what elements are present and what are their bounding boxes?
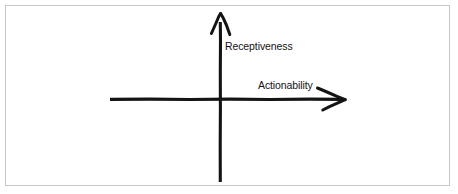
- arrow-right-icon-barb-lower: [323, 100, 345, 110]
- vertical-axis-label: Receptiveness: [225, 40, 293, 52]
- figure-container: Receptiveness Actionability: [0, 0, 458, 194]
- arrow-up-icon-barb-right: [221, 14, 230, 35]
- axes-drawing: [0, 0, 458, 194]
- horizontal-axis-label: Actionability: [258, 79, 313, 91]
